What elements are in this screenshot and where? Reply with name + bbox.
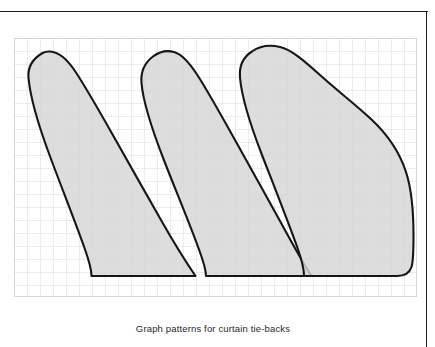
pattern-plate (14, 38, 417, 297)
page-frame-right-rule (426, 11, 427, 347)
figure-root: Graph patterns for curtain tie-backs (0, 0, 435, 347)
pattern-drawing-svg (14, 38, 417, 297)
page-frame-top-rule (0, 11, 428, 12)
figure-caption: Graph patterns for curtain tie-backs (0, 322, 426, 335)
